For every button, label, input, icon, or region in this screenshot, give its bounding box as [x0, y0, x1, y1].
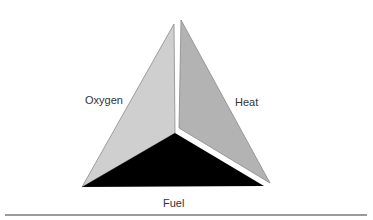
fire-triangle-graphic: [0, 0, 373, 220]
fire-triangle-diagram: Oxygen Heat Fuel: [0, 0, 373, 220]
bottom-divider-line: [5, 214, 367, 216]
oxygen-label: Oxygen: [85, 95, 123, 106]
heat-label: Heat: [235, 97, 258, 108]
fuel-label: Fuel: [163, 198, 184, 209]
